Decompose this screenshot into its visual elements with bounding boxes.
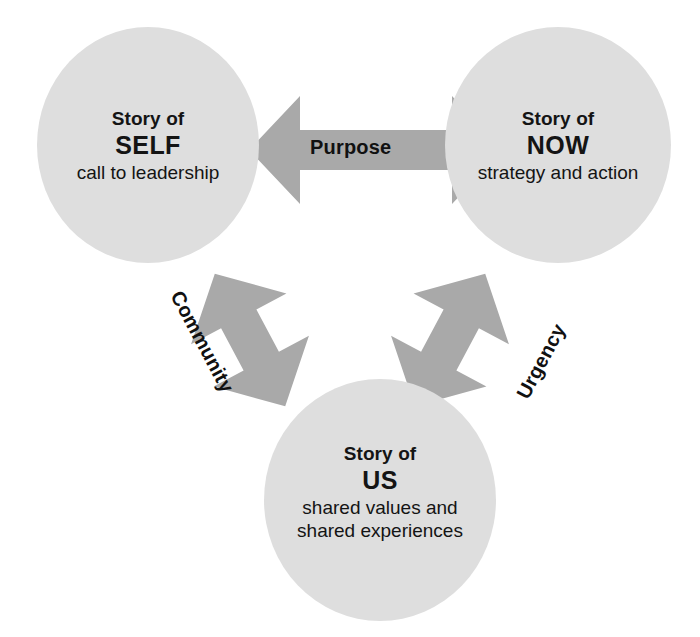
node-us-subtitle-line1: shared values and xyxy=(268,497,492,519)
node-label-self: Story of SELF call to leadership xyxy=(38,108,258,184)
public-narrative-diagram: Story of SELF call to leadership Story o… xyxy=(0,0,700,637)
node-self-line-top: Story of xyxy=(38,108,258,130)
node-self-subtitle: call to leadership xyxy=(38,162,258,184)
node-label-us: Story of US shared values and shared exp… xyxy=(268,443,492,543)
node-now-key: NOW xyxy=(448,131,668,161)
node-self-key: SELF xyxy=(38,131,258,161)
node-us-subtitle-line2: shared experiences xyxy=(268,520,492,542)
node-us-line-top: Story of xyxy=(268,443,492,465)
node-now-subtitle: strategy and action xyxy=(448,162,668,184)
node-now-line-top: Story of xyxy=(448,108,668,130)
node-us-key: US xyxy=(268,466,492,496)
node-label-now: Story of NOW strategy and action xyxy=(448,108,668,184)
edge-label-purpose: Purpose xyxy=(310,136,391,159)
